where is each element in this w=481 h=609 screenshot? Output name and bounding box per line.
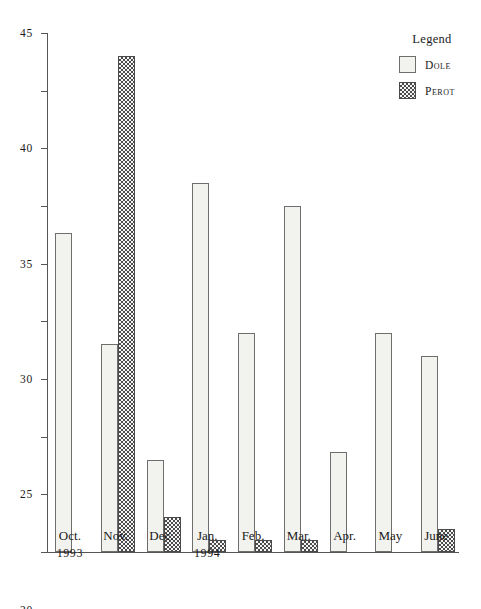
y-tick-mark: 30 — [41, 206, 47, 207]
x-label-month: June — [424, 527, 448, 544]
legend: Legend Dole Perot — [386, 32, 478, 108]
x-axis-label-apr: Apr. — [333, 527, 356, 544]
legend-item-dole: Dole — [386, 56, 478, 73]
y-tick-label: 35 — [20, 258, 33, 270]
x-axis-line — [47, 552, 459, 553]
y-axis-line — [47, 33, 48, 552]
bar-dole-jan — [192, 183, 209, 552]
x-label-month: Mar. — [287, 527, 311, 544]
legend-label-dole: Dole — [425, 59, 451, 71]
x-axis-label-jan: Jan.1994 — [194, 527, 220, 562]
x-axis-label-mar: Mar. — [287, 527, 311, 544]
bar-dole-june — [421, 356, 438, 552]
y-tick-label: 20 — [20, 604, 33, 609]
bar-dole-mar — [284, 206, 301, 552]
x-label-year: 1994 — [194, 544, 220, 562]
y-tick-mark: 35 — [41, 148, 47, 149]
x-label-month: Dec. — [149, 527, 173, 544]
y-tick-label: 45 — [20, 27, 33, 39]
legend-title: Legend — [386, 32, 478, 47]
x-label-month: Jan. — [194, 527, 220, 544]
bar-dole-nov — [101, 344, 118, 552]
hatched-swatch-icon — [399, 82, 416, 99]
bar-dole-oct — [55, 233, 72, 552]
y-tick-label: 40 — [20, 142, 33, 154]
x-axis-label-may: May — [378, 527, 402, 544]
y-tick-label: 25 — [20, 488, 33, 500]
x-axis-label-june: June — [424, 527, 448, 544]
x-label-month: May — [378, 527, 402, 544]
x-label-month: Oct. — [57, 527, 83, 544]
x-axis-label-oct: Oct.1993 — [57, 527, 83, 562]
y-tick-mark: 5 — [41, 494, 47, 495]
bar-chart: 051015202530354045 Oct.1993Nov.Dec.Jan.1… — [0, 0, 481, 609]
plot-area: 051015202530354045 — [47, 33, 459, 552]
legend-label-perot: Perot — [425, 85, 455, 97]
x-label-month: Apr. — [333, 527, 356, 544]
bar-dole-may — [375, 333, 392, 552]
legend-item-perot: Perot — [386, 82, 478, 99]
bar-dole-feb — [238, 333, 255, 552]
y-tick-mark: 10 — [41, 437, 47, 438]
x-axis-label-dec: Dec. — [149, 527, 173, 544]
y-tick-mark: 25 — [41, 264, 47, 265]
y-tick-label: 30 — [20, 373, 33, 385]
x-axis-label-feb: Feb. — [242, 527, 265, 544]
light-swatch-icon — [399, 56, 416, 73]
y-tick-mark: 45 — [41, 33, 47, 34]
x-label-month: Nov. — [103, 527, 128, 544]
x-axis-label-nov: Nov. — [103, 527, 128, 544]
y-tick-mark: 0 — [41, 552, 47, 553]
y-tick-mark: 40 — [41, 91, 47, 92]
y-tick-mark: 15 — [41, 379, 47, 380]
bar-perot-nov — [118, 56, 135, 552]
y-tick-mark: 20 — [41, 321, 47, 322]
x-label-month: Feb. — [242, 527, 265, 544]
x-label-year: 1993 — [57, 544, 83, 562]
